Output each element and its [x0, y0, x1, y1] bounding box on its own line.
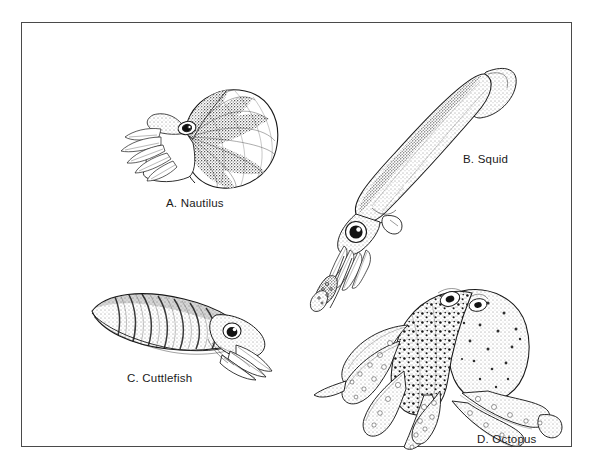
squid-illustration: [310, 56, 525, 308]
nautilus-head: [121, 114, 197, 182]
caption-squid: B. Squid: [463, 153, 508, 165]
cuttlefish-eye: [223, 323, 241, 339]
caption-cuttlefish: C. Cuttlefish: [127, 372, 192, 384]
cuttlefish-illustration: [80, 281, 275, 381]
nautilus-illustration: [117, 73, 282, 198]
caption-nautilus: A. Nautilus: [166, 197, 224, 209]
figure-page: A. Nautilus: [0, 0, 592, 461]
caption-octopus: D. Octopus: [477, 433, 537, 445]
figure-border-frame: A. Nautilus: [21, 22, 572, 447]
squid-eye: [346, 222, 367, 243]
octopus-illustration: [312, 275, 574, 455]
nautilus-shell: [183, 87, 278, 189]
